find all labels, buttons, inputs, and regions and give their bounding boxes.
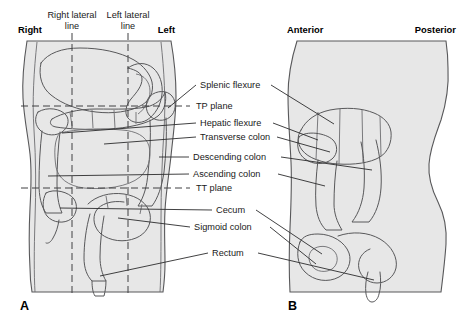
torso-silhouette-anterior bbox=[23, 41, 176, 292]
panel-letter-a: A bbox=[20, 299, 29, 313]
label-rectum: Rectum bbox=[212, 248, 244, 258]
panel-b-lateral-view: Anterior Posterior B bbox=[287, 24, 456, 313]
label-transverse-colon: Transverse colon bbox=[200, 132, 270, 142]
label-hepatic-flexure: Hepatic flexure bbox=[200, 118, 261, 128]
label-cecum: Cecum bbox=[216, 205, 245, 215]
panel-a-anterior-view: Right Left Right lateral line Left later… bbox=[18, 10, 190, 313]
label-ascending-colon: Ascending colon bbox=[193, 169, 260, 179]
orientation-label-left: Left bbox=[158, 24, 175, 35]
label-splenic-flexure: Splenic flexure bbox=[200, 80, 260, 90]
label-descending-colon: Descending colon bbox=[193, 152, 266, 162]
orientation-label-right: Right bbox=[18, 24, 42, 35]
torso-silhouette-lateral bbox=[288, 41, 448, 292]
panel-letter-b: B bbox=[288, 299, 297, 313]
left-lateral-line-label-line2: line bbox=[121, 21, 135, 31]
label-tt-plane: TT plane bbox=[196, 183, 232, 193]
label-sigmoid-colon: Sigmoid colon bbox=[194, 222, 252, 232]
left-lateral-line-label-line1: Left lateral bbox=[107, 10, 150, 20]
right-lateral-line-label-line2: line bbox=[65, 21, 79, 31]
orientation-label-posterior: Posterior bbox=[415, 24, 457, 35]
label-tp-plane: TP plane bbox=[196, 101, 233, 111]
orientation-label-anterior: Anterior bbox=[287, 24, 324, 35]
right-lateral-line-label-line1: Right lateral bbox=[47, 10, 96, 20]
anatomy-figure: Right Left Right lateral line Left later… bbox=[0, 0, 462, 325]
